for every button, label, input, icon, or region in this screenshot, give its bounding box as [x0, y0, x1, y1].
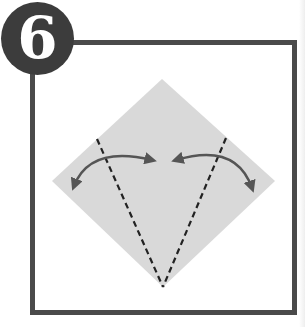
step-number: 6 [17, 9, 57, 67]
step-number-badge: 6 [1, 2, 74, 75]
paper-diamond [52, 79, 275, 287]
